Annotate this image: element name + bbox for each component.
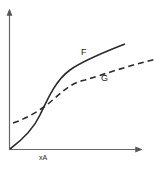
curve-g <box>13 59 157 123</box>
label-g: G <box>101 73 108 83</box>
label-f: F <box>81 47 87 57</box>
diagram-canvas: F G xA <box>0 0 163 171</box>
x-axis-label: xA <box>39 154 48 161</box>
curve-f <box>10 44 125 149</box>
